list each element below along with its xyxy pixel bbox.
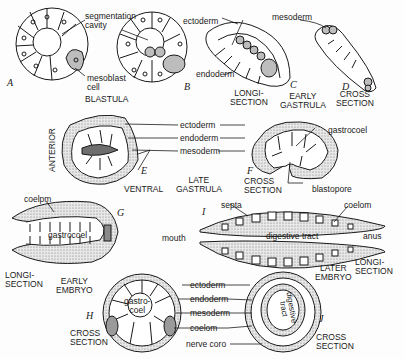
caption-later-embryo: LATER EMBRYO: [315, 264, 352, 282]
panel-letter: E: [141, 165, 147, 176]
label-coelom: coelom: [344, 201, 371, 210]
caption-early-gastrula: EARLY GASTRULA: [280, 92, 326, 110]
label-ventral: VENTRAL: [124, 185, 163, 194]
caption-cross-section: CROSS SECTION: [244, 177, 282, 195]
panel-letter: I: [202, 206, 205, 217]
label-gastrocoel: gastrocoel: [328, 126, 367, 135]
label-mesoderm: mesoderm: [272, 13, 312, 22]
label-endoderm: endoderm: [180, 134, 218, 143]
panel-letter: H: [86, 310, 93, 321]
panel-letter: B: [184, 81, 190, 92]
caption-cross-section: CROSS SECTION: [70, 329, 108, 347]
label-septa: septa: [221, 201, 242, 210]
label-segmentation-cavity: segmentation cavity: [85, 12, 136, 30]
caption-early-embryo: EARLY EMBRYO: [56, 277, 93, 295]
label-gastrocoel: gastro- coel: [124, 297, 150, 315]
label-mesoderm: mesoderm: [180, 147, 220, 156]
caption-longisection: LONGI- SECTION: [355, 258, 393, 276]
label-nerve-cord: nerve coro: [186, 340, 226, 349]
panel-f-late-gastrula-crosssection: [252, 122, 338, 183]
caption-blastula: BLASTULA: [85, 95, 128, 104]
caption-late-gastrula: LATE GASTRULA: [176, 176, 222, 194]
label-blastopore: blastopore: [312, 185, 352, 194]
label-ectoderm: ectoderm: [183, 17, 218, 26]
label-ectoderm: ectoderm: [180, 121, 215, 130]
panel-d-early-gastrula-crosssection: [300, 20, 376, 92]
label-digestive-tract: digestive tract: [266, 232, 318, 241]
caption-longisection: LONGI- SECTION: [5, 271, 43, 289]
panel-letter: C: [290, 79, 297, 90]
label-anterior: ANTERIOR: [47, 128, 57, 172]
panel-letter: F: [247, 165, 253, 176]
label-coelom: coelpm: [24, 195, 51, 204]
label-endoderm: endoderm: [190, 295, 228, 304]
panel-a-blastula: [16, 8, 88, 80]
embryology-figure: A B C D E F G I H J segmentation cavity …: [0, 0, 404, 359]
panel-letter: A: [7, 77, 13, 88]
caption-longisection: LONGI- SECTION: [230, 89, 268, 107]
caption-cross-section: CROSS SECTION: [316, 333, 354, 351]
panel-j-later-embryo-crosssection: [228, 272, 321, 352]
panel-letter: J: [319, 313, 323, 324]
label-coelom: coelom: [190, 324, 217, 333]
caption-cross-section: CROSS SECTION: [336, 90, 374, 108]
label-mesoderm: mesoderm: [190, 309, 230, 318]
label-mouth: mouth: [162, 234, 186, 243]
label-anus: anus: [363, 232, 381, 241]
label-ectoderm: ectoderm: [190, 281, 225, 290]
label-mesoblast-cell: mesoblast cell: [87, 74, 126, 92]
panel-letter: G: [117, 207, 124, 218]
label-endoderm: endoderm: [196, 70, 234, 79]
label-gastrocoel: gastrocoel: [48, 231, 87, 240]
